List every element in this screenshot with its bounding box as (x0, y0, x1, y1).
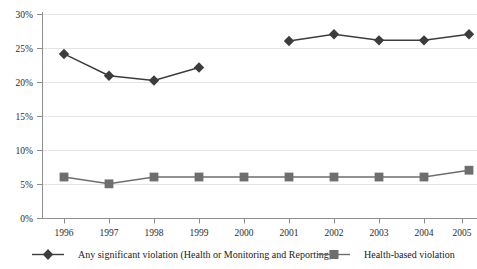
x-axis-ticks (65, 219, 463, 224)
x-tick-label: 2003 (370, 228, 389, 238)
data-point-diamond (59, 49, 69, 59)
legend-label: Any significant violation (Health or Mon… (78, 249, 332, 261)
y-tick-label: 0% (20, 214, 33, 224)
data-point-square (195, 173, 204, 182)
series-any-significant-violation (59, 29, 474, 86)
y-tick-label: 10% (16, 146, 34, 156)
x-tick-label: 2001 (280, 228, 299, 238)
data-point-square (420, 173, 429, 182)
series-line (64, 170, 469, 184)
data-point-diamond (464, 29, 474, 39)
series-layer (59, 29, 474, 188)
x-tick-label: 2000 (235, 228, 254, 238)
data-point-square (375, 173, 384, 182)
x-tick-label: 1998 (145, 228, 164, 238)
x-tick-label: 1997 (100, 228, 119, 238)
data-point-diamond (419, 35, 429, 45)
square-icon (330, 250, 339, 259)
data-point-square (60, 173, 69, 182)
x-tick-label: 1996 (55, 228, 74, 238)
y-axis-ticks (37, 15, 42, 219)
data-point-square (240, 173, 249, 182)
line-chart: 30% 25% 20% 15% 10% 5% 0% 1996 1997 1998 (0, 0, 477, 269)
diamond-icon (43, 249, 53, 260)
data-point-square (285, 173, 294, 182)
y-axis-labels: 30% 25% 20% 15% 10% 5% 0% (16, 10, 34, 224)
x-tick-label: 2005 (453, 228, 472, 238)
y-tick-label: 5% (20, 180, 33, 190)
y-tick-label: 25% (16, 44, 34, 54)
x-tick-label: 2004 (415, 228, 434, 238)
legend-item-health-based-violation[interactable]: Health-based violation (318, 249, 455, 260)
data-point-diamond (374, 35, 384, 45)
data-point-diamond (149, 75, 159, 85)
x-tick-label: 1999 (190, 228, 209, 238)
legend-label: Health-based violation (364, 249, 455, 260)
data-point-diamond (284, 36, 294, 46)
data-point-square (105, 179, 114, 188)
data-point-square (465, 166, 474, 175)
legend-item-any-significant-violation[interactable]: Any significant violation (Health or Mon… (32, 249, 332, 261)
data-point-square (330, 173, 339, 182)
series-line (64, 54, 199, 81)
data-point-diamond (104, 71, 114, 81)
x-axis-labels: 1996 1997 1998 1999 2000 2001 2002 2003 … (55, 228, 472, 238)
y-tick-label: 15% (16, 112, 34, 122)
y-tick-label: 30% (16, 10, 34, 20)
chart-figure: 30% 25% 20% 15% 10% 5% 0% 1996 1997 1998 (0, 0, 477, 269)
x-tick-label: 2002 (325, 228, 344, 238)
data-point-square (150, 173, 159, 182)
chart-legend: Any significant violation (Health or Mon… (32, 249, 455, 261)
data-point-diamond (194, 62, 204, 72)
data-point-diamond (329, 29, 339, 39)
y-tick-label: 20% (16, 78, 34, 88)
